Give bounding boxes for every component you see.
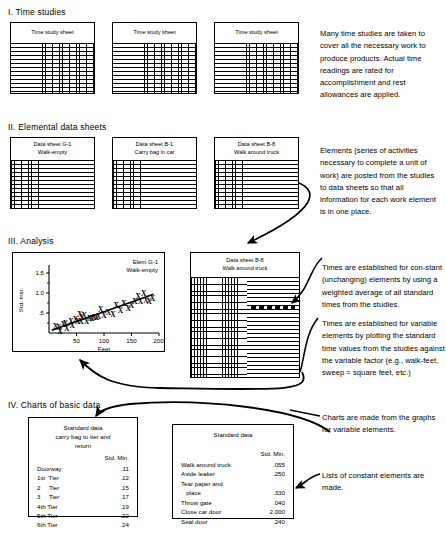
arrow-note-variable-to-sheet [300,318,318,372]
arrow-sheets-to-analysis [248,183,310,243]
arrow-note-constant-to-row [292,258,322,303]
arrow-note-charts [290,410,320,416]
arrow-note-lists-to-right-table [296,474,320,488]
arrow-chart-to-left-table [96,402,330,432]
connector-arrows [0,0,446,542]
arrow-sheet-to-chart [80,360,304,389]
